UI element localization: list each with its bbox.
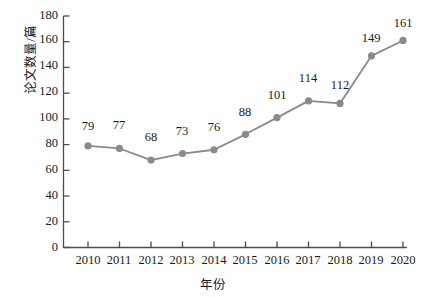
line-chart: 论文数量/篇 年份 0 20 40 60 80 100 120 140 160 … — [0, 0, 426, 298]
data-point — [336, 100, 343, 107]
y-axis — [64, 16, 70, 248]
data-point — [147, 156, 154, 163]
data-point — [210, 146, 217, 153]
data-point — [399, 37, 406, 44]
data-point — [84, 142, 91, 149]
data-point — [242, 131, 249, 138]
series-markers — [84, 37, 406, 164]
data-point — [179, 150, 186, 157]
x-axis — [64, 242, 408, 248]
data-point — [116, 145, 123, 152]
data-point — [368, 52, 375, 59]
series-line — [88, 40, 403, 160]
data-point — [273, 114, 280, 121]
data-point — [305, 97, 312, 104]
plot-area — [0, 0, 426, 298]
